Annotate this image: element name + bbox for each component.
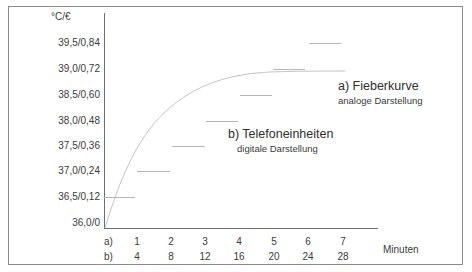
x-tick-a: 2 [156, 236, 186, 247]
x-tick-a: 7 [328, 236, 358, 247]
y-tick-label: 37,0/0,24 [58, 165, 100, 176]
series-a-subtitle: analoge Darstellung [338, 95, 423, 106]
x-tick-a: 3 [190, 236, 220, 247]
y-tick-label: 39,0/0,72 [58, 63, 100, 74]
x-tick-b: 4 [122, 251, 152, 262]
x-axis-label: Minuten [383, 244, 419, 255]
y-tick-label: 37,5/0,36 [58, 140, 100, 151]
x-tick-a: 1 [122, 236, 152, 247]
x-tick-a: 4 [224, 236, 254, 247]
series-b-title: b) Telefoneinheiten [228, 127, 333, 141]
x-tick-b: 20 [259, 251, 289, 262]
x-tick-b: 12 [190, 251, 220, 262]
series-a-title: a) Fieberkurve [338, 79, 419, 93]
y-tick-label: 36,5/0,12 [58, 191, 100, 202]
x-tick-a: 5 [259, 236, 289, 247]
x-row-label-a: a) [104, 236, 113, 247]
y-tick-label: 39,5/0,84 [58, 37, 100, 48]
y-axis-unit: °C/€ [51, 11, 71, 22]
x-tick-b: 8 [156, 251, 186, 262]
x-tick-b: 16 [224, 251, 254, 262]
y-tick-label: 38,5/0,60 [58, 89, 100, 100]
y-tick-label: 38,0/0,48 [58, 115, 100, 126]
y-tick-label: 36,0/0 [72, 217, 100, 228]
series-b-subtitle: digitale Darstellung [237, 143, 318, 154]
x-tick-b: 24 [293, 251, 323, 262]
phone-units-steps [104, 44, 341, 198]
x-tick-a: 6 [293, 236, 323, 247]
x-tick-b: 28 [328, 251, 358, 262]
x-row-label-b: b) [104, 251, 113, 262]
